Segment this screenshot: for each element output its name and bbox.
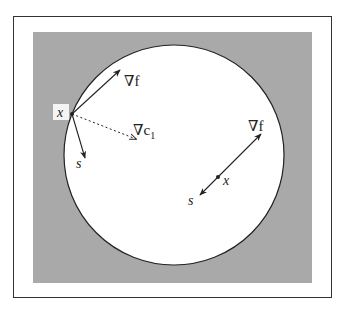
feasible-region-circle	[64, 45, 284, 265]
diagram-figure: x ∇f s ∇c1 ∇f s x	[0, 0, 343, 311]
interior-point-label: x	[222, 173, 230, 188]
boundary-step-label: s	[76, 156, 82, 171]
interior-step-label: s	[188, 193, 194, 208]
boundary-grad-f-label: ∇f	[124, 73, 139, 89]
boundary-point-dot	[70, 112, 74, 116]
interior-grad-f-label: ∇f	[248, 118, 263, 134]
boundary-point-label: x	[56, 105, 64, 120]
interior-point-dot	[216, 175, 220, 179]
